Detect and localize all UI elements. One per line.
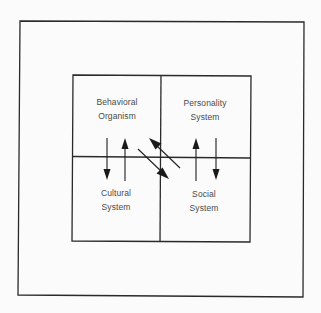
- vertical-divider: [160, 76, 161, 242]
- label-line: System: [164, 202, 244, 216]
- arrow-down-behavioral-to-cultural: [104, 138, 111, 180]
- diagram-canvas: [0, 0, 321, 313]
- arrow-up-cultural-to-behavioral: [122, 138, 129, 181]
- arrow-down-personality-to-social: [213, 138, 220, 180]
- horizontal-divider: [73, 157, 251, 159]
- label-line: Organism: [77, 110, 157, 124]
- label-line: Social: [164, 188, 244, 202]
- label-line: System: [165, 111, 245, 125]
- label-social-system: Social System: [164, 188, 244, 215]
- label-personality-system: Personality System: [165, 97, 245, 124]
- label-line: Personality: [165, 97, 245, 111]
- label-line: Cultural: [76, 187, 156, 201]
- label-line: Behavioral: [77, 96, 157, 110]
- label-line: System: [76, 201, 156, 215]
- label-behavioral-organism: Behavioral Organism: [77, 96, 157, 123]
- label-cultural-system: Cultural System: [76, 187, 156, 214]
- arrow-up-social-to-personality: [193, 138, 200, 181]
